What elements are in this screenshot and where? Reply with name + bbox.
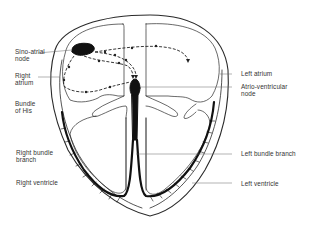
arrowhead-av-2 xyxy=(134,75,138,79)
label-bundle-of-his: Bundle of His xyxy=(15,100,36,115)
label-right-ventricle: Right ventricle xyxy=(16,179,58,186)
label-left-ventricle: Left ventricle xyxy=(241,180,279,187)
label-right-atrium: Right atrium xyxy=(15,72,33,87)
label-atrio-ventricular-node: Atrio-ventricular node xyxy=(241,83,287,98)
mitral-valve xyxy=(146,96,178,117)
bundle-of-his xyxy=(132,95,138,140)
tricuspid-valve xyxy=(92,96,127,118)
conduction-path-lower-to-av xyxy=(64,56,130,92)
inner-wall-left xyxy=(150,70,222,208)
sino-atrial-node xyxy=(72,43,94,55)
left-atrium-chamber xyxy=(146,24,219,102)
atrio-ventricular-node xyxy=(130,79,140,97)
label-sino-atrial-node: Sino-atrial node xyxy=(15,48,45,63)
left-valve-flap xyxy=(184,104,196,119)
label-right-bundle-branch: Right bundle branch xyxy=(16,149,53,164)
conduction-path-to-left-atrium xyxy=(95,46,188,60)
left-bundle-branch xyxy=(137,102,214,196)
arrowhead-left-atrium xyxy=(186,59,190,63)
label-left-atrium: Left atrium xyxy=(241,70,272,77)
heart-conduction-diagram xyxy=(0,0,309,231)
label-left-bundle-branch: Left bundle branch xyxy=(241,150,296,157)
